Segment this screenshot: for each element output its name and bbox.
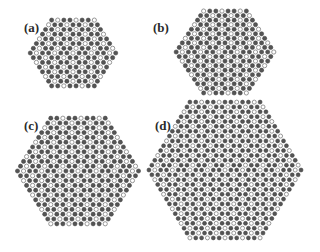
open-atom [40, 169, 44, 173]
open-atom [235, 110, 239, 114]
open-atom [31, 183, 35, 187]
open-atom [189, 73, 193, 77]
filled-atom [52, 169, 56, 173]
filled-atom [104, 46, 108, 50]
filled-atom [91, 183, 95, 187]
filled-atom [279, 192, 283, 196]
open-atom [37, 37, 41, 41]
filled-atom [37, 174, 41, 178]
filled-atom [208, 202, 212, 206]
open-atom [58, 179, 62, 183]
filled-atom [88, 217, 92, 221]
filled-atom [121, 155, 125, 159]
filled-atom [61, 212, 65, 216]
filled-atom [50, 74, 54, 78]
filled-atom [86, 84, 90, 88]
open-atom [112, 198, 116, 202]
filled-atom [40, 60, 44, 64]
filled-atom [255, 134, 259, 138]
open-atom [252, 100, 256, 104]
filled-atom [86, 27, 90, 31]
filled-atom [43, 46, 47, 50]
filled-atom [177, 45, 181, 49]
filled-atom [255, 173, 259, 177]
filled-atom [287, 168, 291, 172]
filled-atom [220, 64, 224, 68]
filled-atom [211, 217, 215, 221]
filled-atom [100, 207, 104, 211]
filled-atom [52, 188, 56, 192]
filled-atom [252, 178, 256, 182]
open-atom [220, 36, 224, 40]
filled-atom [162, 153, 166, 157]
open-atom [115, 145, 119, 149]
open-atom [56, 46, 60, 50]
filled-atom [55, 212, 59, 216]
filled-atom [40, 32, 44, 36]
filled-atom [241, 139, 245, 143]
filled-atom [179, 124, 183, 128]
open-atom [261, 153, 265, 157]
filled-atom [64, 150, 68, 154]
open-atom [244, 73, 248, 77]
filled-atom [208, 173, 212, 177]
filled-atom [246, 178, 250, 182]
filled-atom [185, 163, 189, 167]
open-atom [296, 163, 300, 167]
filled-atom [241, 41, 245, 45]
filled-atom [159, 149, 163, 153]
filled-atom [109, 126, 113, 130]
filled-atom [246, 207, 250, 211]
filled-atom [223, 110, 227, 114]
filled-atom [197, 124, 201, 128]
filled-atom [165, 168, 169, 172]
filled-atom [80, 46, 84, 50]
open-atom [79, 155, 83, 159]
filled-atom [191, 183, 195, 187]
filled-atom [246, 149, 250, 153]
open-atom [162, 192, 166, 196]
filled-atom [55, 126, 59, 130]
open-atom [202, 18, 206, 22]
filled-atom [232, 124, 236, 128]
open-atom [208, 134, 212, 138]
filled-atom [211, 86, 215, 90]
filled-atom [92, 65, 96, 69]
filled-atom [282, 139, 286, 143]
filled-atom [194, 149, 198, 153]
filled-atom [220, 231, 224, 235]
open-atom [53, 79, 57, 83]
open-atom [200, 149, 204, 153]
open-atom [211, 41, 215, 45]
filled-atom [147, 168, 151, 172]
filled-atom [264, 139, 268, 143]
open-atom [217, 68, 221, 72]
open-atom [235, 50, 239, 54]
open-atom [258, 226, 262, 230]
filled-atom [229, 129, 233, 133]
filled-atom [238, 91, 242, 95]
filled-atom [197, 105, 201, 109]
filled-atom [220, 153, 224, 157]
open-atom [276, 178, 280, 182]
filled-atom [185, 134, 189, 138]
open-atom [43, 65, 47, 69]
filled-atom [217, 14, 221, 18]
filled-atom [191, 231, 195, 235]
open-atom [61, 164, 65, 168]
filled-atom [260, 41, 264, 45]
open-atom [83, 32, 87, 36]
filled-atom [217, 23, 221, 27]
open-atom [211, 23, 215, 27]
open-atom [74, 46, 78, 50]
open-atom [40, 179, 44, 183]
filled-atom [243, 221, 247, 225]
filled-atom [86, 65, 90, 69]
filled-atom [214, 115, 218, 119]
filled-atom [49, 135, 53, 139]
open-atom [229, 14, 233, 18]
open-atom [56, 27, 60, 31]
filled-atom [241, 149, 245, 153]
open-atom [232, 183, 236, 187]
filled-atom [250, 36, 254, 40]
